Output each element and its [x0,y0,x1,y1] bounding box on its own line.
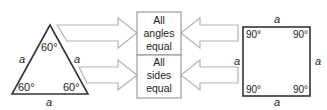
triangle-side-bottom: a [46,96,52,108]
box-angles-line-2: angles [144,27,175,39]
triangle-side-right: a [74,53,80,65]
triangle-angle-bottom-right: 60° [63,81,80,93]
square-side-top: a [274,13,280,25]
arrow-triangle-to-sides-box [79,60,137,90]
triangle-side-left: a [19,53,25,65]
arrow-square-to-angles-box [181,18,238,48]
square-side-left: a [234,55,240,67]
equal-properties-diagram: 60° 60° 60° a a a All angles equal All s… [0,0,327,110]
square-side-bottom: a [274,96,280,108]
box-sides-line-3: equal [146,82,172,94]
triangle-angle-top: 60° [41,41,58,53]
box-angles-line-3: equal [146,40,172,52]
all-sides-equal-box: All sides equal [137,55,181,98]
square-angle-top-right: 90° [293,29,308,40]
box-angles-line-1: All [153,14,165,26]
all-angles-equal-box: All angles equal [137,12,181,55]
box-sides-line-2: sides [147,69,172,81]
square: 90° 90° 90° 90° a a a a [234,13,321,108]
arrow-square-to-sides-box [181,60,238,90]
arrow-triangle-to-angles-box [57,18,137,48]
box-sides-line-1: All [153,56,165,68]
square-side-right: a [315,55,321,67]
square-angle-bottom-right: 90° [293,84,308,95]
square-angle-top-left: 90° [246,29,261,40]
triangle-angle-bottom-left: 60° [18,81,35,93]
square-angle-bottom-left: 90° [246,84,261,95]
